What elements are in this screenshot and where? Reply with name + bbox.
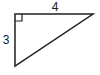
triangle-outline — [15, 14, 93, 66]
left-edge-length-label: 3 — [1, 34, 11, 46]
top-edge-length-label: 4 — [50, 1, 60, 13]
right-angle-marker-icon — [15, 14, 22, 21]
right-triangle-figure: 4 3 — [0, 0, 100, 75]
